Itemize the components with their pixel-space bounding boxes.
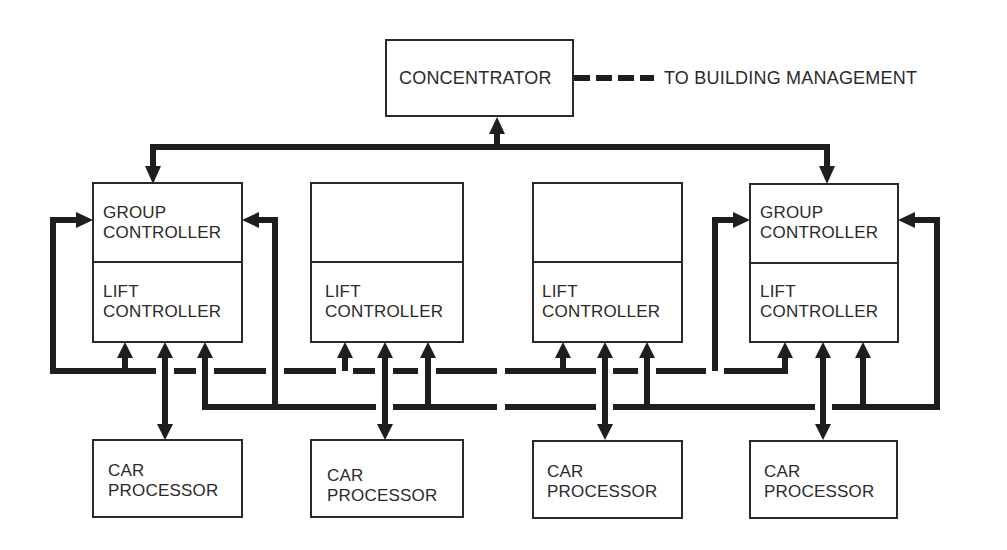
concentrator-block: CONCENTRATOR [386, 40, 573, 116]
arrow-up-lift-controller-4-a-icon [777, 342, 793, 358]
concentrator-distribution-bus [145, 117, 835, 184]
arrow-up-lift-controller-1-b-icon [197, 342, 213, 358]
bidirectional-arrow-1-down-icon [157, 424, 173, 440]
controller-unit-2: LIFT CONTROLLER [311, 183, 463, 342]
lift-controller-1-label-line1: LIFT [103, 282, 139, 301]
car-processor-3: CAR PROCESSOR [533, 441, 682, 518]
arrow-up-lift-controller-3-b-icon [639, 342, 655, 358]
arrow-into-group-controller-4-right-icon [898, 212, 915, 228]
arrow-down-to-group-controller-4-icon [819, 166, 835, 184]
arrow-up-lift-controller-2-b-icon [420, 342, 436, 358]
lift-controller-3-label-line1: LIFT [542, 282, 578, 301]
bidirectional-arrow-3-up-icon [597, 342, 613, 358]
lift-control-system-diagram: CONCENTRATOR TO BUILDING MANAGEMENT GROU… [0, 0, 1007, 550]
bidirectional-arrow-3-down-icon [597, 424, 613, 440]
arrow-down-to-group-controller-1-icon [145, 166, 161, 184]
arrow-up-lift-controller-2-a-icon [337, 342, 353, 358]
car-processor-1-label-line2: PROCESSOR [108, 481, 218, 500]
bidirectional-arrow-4-down-icon [815, 424, 831, 440]
bidirectional-arrow-4-up-icon [815, 342, 831, 358]
arrow-into-group-controller-1-right-icon [242, 212, 259, 228]
car-processor-1: CAR PROCESSOR [93, 440, 242, 517]
concentrator-label: CONCENTRATOR [399, 68, 552, 88]
arrow-up-lift-controller-3-a-icon [555, 342, 571, 358]
building-management-label: TO BUILDING MANAGEMENT [664, 68, 917, 88]
group-controller-4-label-line2: CONTROLLER [760, 223, 878, 242]
car-processor-3-label-line2: PROCESSOR [547, 482, 657, 501]
lift-controller-4-label-line1: LIFT [760, 282, 796, 301]
car-processor-4: CAR PROCESSOR [750, 441, 897, 518]
lift-controller-4-label-line2: CONTROLLER [760, 302, 878, 321]
arrow-up-lift-controller-4-b-icon [855, 342, 871, 358]
arrow-up-lift-controller-1-a-icon [117, 342, 133, 358]
lift-controller-1-label-line2: CONTROLLER [103, 302, 221, 321]
arrow-up-to-concentrator-icon [489, 117, 505, 134]
lift-controller-2-label-line1: LIFT [325, 282, 361, 301]
car-processor-4-label-line1: CAR [764, 462, 801, 481]
controller-unit-3: LIFT CONTROLLER [533, 183, 682, 342]
car-processor-2-label-line1: CAR [327, 466, 364, 485]
bidirectional-arrow-1-up-icon [157, 342, 173, 358]
bidirectional-arrow-2-up-icon [377, 342, 393, 358]
car-processor-1-label-line1: CAR [108, 461, 145, 480]
group-controller-1-label-line2: CONTROLLER [103, 223, 221, 242]
lift-controller-3-label-line2: CONTROLLER [542, 302, 660, 321]
car-processor-2-label-line2: PROCESSOR [327, 486, 437, 505]
car-processor-4-label-line2: PROCESSOR [764, 482, 874, 501]
controller-unit-4: GROUP CONTROLLER LIFT CONTROLLER [750, 184, 898, 342]
group-controller-1-label-line1: GROUP [103, 203, 166, 222]
group-controller-4-label-line1: GROUP [760, 203, 823, 222]
car-processor-links [157, 342, 831, 440]
bidirectional-arrow-2-down-icon [377, 424, 393, 440]
car-processor-3-label-line1: CAR [547, 462, 584, 481]
arrow-into-group-controller-1-left-icon [76, 212, 93, 228]
arrow-into-group-controller-4-left-icon [733, 212, 750, 228]
lift-controller-2-label-line2: CONTROLLER [325, 302, 443, 321]
car-processor-2: CAR PROCESSOR [311, 440, 463, 517]
controller-unit-1: GROUP CONTROLLER LIFT CONTROLLER [93, 183, 242, 342]
